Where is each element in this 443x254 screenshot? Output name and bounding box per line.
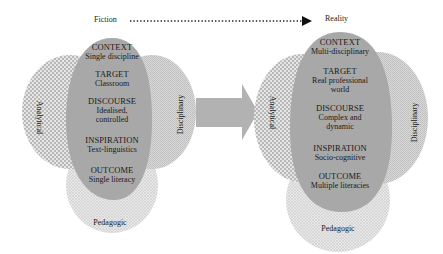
section-heading: CONTEXT: [62, 43, 162, 52]
section-value: Complex and: [290, 113, 390, 122]
section-heading: TARGET: [290, 67, 390, 76]
left-disciplinary-label: Disciplinary: [176, 85, 185, 145]
section-heading: INSPIRATION: [290, 144, 390, 153]
section-heading: INSPIRATION: [62, 136, 162, 145]
fiction-label: Fiction: [94, 15, 117, 24]
right-inspiration-section: INSPIRATION Socio-cognitive: [290, 144, 390, 162]
section-value: world: [290, 85, 390, 94]
transition-arrow: [196, 84, 258, 140]
right-outcome-section: OUTCOME Multiple literacies: [290, 172, 390, 190]
right-diagram: [254, 32, 428, 252]
right-target-section: TARGET Real professional world: [290, 67, 390, 94]
left-discourse-section: DISCOURSE Idealised, controlled: [62, 97, 162, 124]
section-heading: DISCOURSE: [290, 104, 390, 113]
section-value: controlled: [62, 115, 162, 124]
section-value: Multiple literacies: [290, 181, 390, 190]
right-disciplinary-label: Disciplinary: [410, 93, 419, 153]
left-context-section: CONTEXT Single discipline: [62, 43, 162, 61]
section-value: Classroom: [62, 79, 162, 88]
section-heading: OUTCOME: [62, 166, 162, 175]
section-value: Text-linguistics: [62, 145, 162, 154]
section-value: dynamic: [290, 122, 390, 131]
right-discourse-section: DISCOURSE Complex and dynamic: [290, 104, 390, 131]
right-analytical-label: Analytical: [268, 88, 277, 138]
section-value: Single discipline: [62, 52, 162, 61]
section-value: Multi-disciplinary: [290, 47, 390, 56]
section-value: Socio-cognitive: [290, 153, 390, 162]
section-value: Real professional: [290, 76, 390, 85]
left-analytical-label: Analytical: [35, 93, 44, 143]
section-heading: DISCOURSE: [62, 97, 162, 106]
section-value: Single literacy: [62, 175, 162, 184]
fiction-reality-arrow: [130, 16, 312, 26]
left-target-section: TARGET Classroom: [62, 70, 162, 88]
section-heading: TARGET: [62, 70, 162, 79]
section-heading: OUTCOME: [290, 172, 390, 181]
reality-label: Reality: [325, 14, 348, 23]
left-pedagogic-label: Pedagogic: [80, 218, 140, 227]
section-heading: CONTEXT: [290, 38, 390, 47]
right-context-section: CONTEXT Multi-disciplinary: [290, 38, 390, 56]
left-inspiration-section: INSPIRATION Text-linguistics: [62, 136, 162, 154]
left-outcome-section: OUTCOME Single literacy: [62, 166, 162, 184]
section-value: Idealised,: [62, 106, 162, 115]
right-pedagogic-label: Pedagogic: [308, 224, 368, 233]
